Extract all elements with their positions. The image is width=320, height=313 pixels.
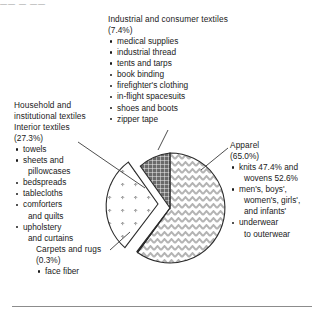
callout-carpets-and-rugs: Carpets and rugs (0.3%) face fiber bbox=[36, 244, 101, 277]
callout-heading-line-2: institutional textiles bbox=[14, 111, 86, 122]
list-item-label: sheets and bbox=[23, 155, 64, 165]
list-item: bedspreads bbox=[14, 177, 86, 188]
list-item-label: medical supplies bbox=[117, 36, 178, 46]
list-item-continuation: to outerwear bbox=[230, 229, 300, 240]
callout-item-list: knits 47.4% and wovens 52.6% men's, boys… bbox=[230, 162, 300, 240]
list-item-continuation: and quilts bbox=[14, 211, 86, 222]
callout-heading: Carpets and rugs bbox=[36, 244, 101, 255]
callout-item-list: towels sheets and pillowcases bedspreads… bbox=[14, 144, 86, 244]
list-item-label: upholstery bbox=[23, 222, 61, 232]
list-item: towels bbox=[14, 144, 86, 155]
list-item-label: men's, boys', bbox=[239, 184, 287, 194]
list-item: zipper tape bbox=[108, 114, 228, 125]
bullet-icon bbox=[110, 62, 112, 64]
bullet-icon bbox=[232, 222, 234, 224]
list-item-label: tents and tarps bbox=[117, 58, 172, 68]
callout-heading-line-1: Household and bbox=[14, 100, 86, 111]
list-item-label: towels bbox=[23, 144, 47, 154]
list-item: upholstery bbox=[14, 222, 86, 233]
callout-percent: (0.3%) bbox=[36, 255, 101, 266]
list-item-label: zipper tape bbox=[117, 114, 158, 124]
list-item: medical supplies bbox=[108, 36, 228, 47]
bullet-icon bbox=[110, 118, 112, 120]
list-item-label: book binding bbox=[117, 69, 164, 79]
bullet-icon bbox=[16, 159, 18, 161]
bullet-icon bbox=[232, 188, 234, 190]
list-item-label: face fiber bbox=[45, 266, 79, 276]
list-item-continuation: pillowcases bbox=[14, 166, 86, 177]
callout-industrial-and-consumer-textiles: Industrial and consumer textiles (7.4%) … bbox=[108, 14, 228, 125]
callout-household-and-institutional-textiles: Household and institutional textiles Int… bbox=[14, 100, 86, 244]
callout-subheading-interior-textiles: Interior textiles bbox=[14, 122, 86, 133]
list-item-label: tablecloths bbox=[23, 188, 63, 198]
callout-item-list: medical supplies industrial thread tents… bbox=[108, 36, 228, 125]
list-item: firefighter's clothing bbox=[108, 80, 228, 91]
callout-percent: (27.3%) bbox=[14, 133, 86, 144]
list-item: underwear bbox=[230, 217, 300, 228]
list-item: men's, boys', bbox=[230, 184, 300, 195]
callout-heading: Industrial and consumer textiles bbox=[108, 14, 228, 25]
list-item-label: women's, girls', bbox=[244, 195, 300, 205]
bullet-icon bbox=[16, 193, 18, 195]
list-item: industrial thread bbox=[108, 47, 228, 58]
bullet-icon bbox=[16, 182, 18, 184]
list-item-label: to outerwear bbox=[244, 229, 290, 239]
bullet-icon bbox=[110, 51, 112, 53]
callout-apparel: Apparel (65.0%) knits 47.4% and wovens 5… bbox=[230, 140, 300, 240]
list-item-continuation: and curtains bbox=[14, 233, 86, 244]
list-item-continuation: wovens 52.6% bbox=[230, 173, 300, 184]
callout-item-list: face fiber bbox=[36, 266, 101, 277]
list-item-label: pillowcases bbox=[28, 166, 70, 176]
list-item: face fiber bbox=[36, 266, 101, 277]
list-item-label: bedspreads bbox=[23, 177, 66, 187]
bullet-icon bbox=[110, 96, 112, 98]
list-item-continuation: and infants' bbox=[230, 206, 300, 217]
bullet-icon bbox=[38, 270, 40, 272]
list-item-label: comforters bbox=[23, 199, 62, 209]
list-item: in-flight spacesuits bbox=[108, 91, 228, 102]
list-item: tents and tarps bbox=[108, 58, 228, 69]
list-item-label: industrial thread bbox=[117, 47, 176, 57]
list-item: sheets and bbox=[14, 155, 86, 166]
list-item: book binding bbox=[108, 69, 228, 80]
bullet-icon bbox=[16, 226, 18, 228]
list-item-label: shoes and boots bbox=[117, 103, 178, 113]
bullet-icon bbox=[16, 148, 18, 150]
list-item: knits 47.4% and bbox=[230, 162, 300, 173]
list-item: comforters bbox=[14, 199, 86, 210]
bullet-icon bbox=[232, 166, 234, 168]
page-footer-divider bbox=[12, 306, 312, 307]
bullet-icon bbox=[110, 40, 112, 42]
list-item-label: and quilts bbox=[28, 211, 64, 221]
list-item-label: wovens 52.6% bbox=[244, 173, 298, 183]
list-item-label: firefighter's clothing bbox=[117, 80, 188, 90]
list-item: shoes and boots bbox=[108, 103, 228, 114]
bullet-icon bbox=[110, 74, 112, 76]
list-item: tablecloths bbox=[14, 188, 86, 199]
list-item-label: knits 47.4% and bbox=[239, 162, 298, 172]
list-item-label: in-flight spacesuits bbox=[117, 91, 185, 101]
leader-line-household bbox=[78, 142, 145, 188]
pie-chart-figure: —— — —— bbox=[0, 0, 320, 313]
leader-line-industrial bbox=[158, 130, 168, 150]
callout-percent: (7.4%) bbox=[108, 25, 228, 36]
leader-line-apparel bbox=[201, 148, 228, 170]
bullet-icon bbox=[110, 85, 112, 87]
list-item-label: underwear bbox=[239, 217, 278, 227]
list-item-label: and infants' bbox=[244, 206, 286, 216]
bullet-icon bbox=[110, 107, 112, 109]
bullet-icon bbox=[16, 204, 18, 206]
list-item-continuation: women's, girls', bbox=[230, 195, 300, 206]
callout-percent: (65.0%) bbox=[230, 151, 300, 162]
callout-heading: Apparel bbox=[230, 140, 300, 151]
list-item-label: and curtains bbox=[28, 233, 73, 243]
